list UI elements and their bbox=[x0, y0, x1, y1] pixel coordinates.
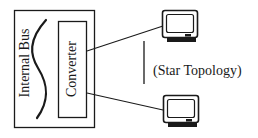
internal-bus-curve bbox=[32, 20, 46, 118]
monitor-icon bbox=[164, 96, 199, 128]
link-to-bottom-terminal bbox=[87, 93, 163, 110]
topology-label: (Star Topology) bbox=[153, 63, 242, 79]
internal-bus-label: Internal Bus bbox=[18, 29, 32, 98]
star-topology-diagram: Internal Bus Converter (Star Topology) bbox=[0, 0, 258, 138]
monitor-icon bbox=[163, 11, 198, 43]
converter-label: Converter bbox=[65, 41, 79, 97]
link-to-top-terminal bbox=[87, 26, 163, 51]
